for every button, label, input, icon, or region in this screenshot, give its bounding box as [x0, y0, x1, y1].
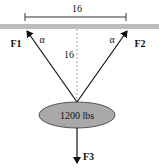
angle-right-label: α [109, 34, 115, 45]
f1-label: F1 [10, 38, 21, 49]
weight-label: 1200 lbs [60, 110, 94, 121]
f2-arrow [77, 31, 127, 102]
f2-label: F2 [134, 38, 145, 49]
span-label: 16 [72, 3, 82, 14]
span-dimension [25, 13, 126, 21]
ceiling-bar [0, 24, 159, 29]
f3-label: F3 [83, 151, 94, 162]
f1-arrow [27, 31, 77, 102]
height-label: 16 [64, 49, 74, 60]
force-diagram: 16 16 F1 F2 α α 1200 lbs F3 [0, 0, 159, 168]
angle-left-label: α [39, 34, 45, 45]
